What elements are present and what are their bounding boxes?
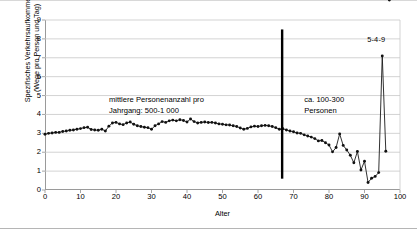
data-line-series (45, 56, 386, 183)
plot-svg (0, 0, 417, 230)
spike-value-label: 5-4-9 (367, 35, 385, 44)
x-tick-marks (45, 190, 400, 193)
population-note-left: mittlere Personenanzahl pro Jahrgang: 50… (109, 94, 204, 116)
gridlines (45, 20, 400, 190)
data-point-markers (44, 0, 391, 184)
y-tick-marks (42, 20, 45, 190)
population-note-right: ca. 100-300 Personen (304, 94, 344, 116)
chart-container: Spezifisches Verkehrsaufkommen (Wege pro… (0, 0, 417, 230)
